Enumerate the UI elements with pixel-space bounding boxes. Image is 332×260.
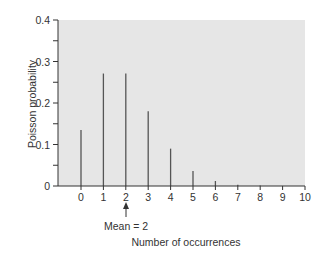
- mean-annotation: Mean = 2: [104, 202, 148, 232]
- x-axis: 012345678910: [58, 186, 311, 203]
- plot-area: [58, 20, 305, 186]
- x-tick-label: 9: [280, 191, 286, 203]
- x-tick-label: 4: [168, 191, 174, 203]
- x-tick-label: 6: [212, 191, 218, 203]
- x-tick-label: 8: [257, 191, 263, 203]
- x-axis-title: Number of occurrences: [131, 236, 240, 248]
- y-axis-title: Poisson probability: [26, 59, 38, 148]
- y-axis: 00.10.20.30.4: [35, 14, 58, 192]
- x-tick-label: 7: [235, 191, 241, 203]
- x-tick-label: 0: [78, 191, 84, 203]
- x-tick-label: 1: [100, 191, 106, 203]
- x-tick-label: 5: [190, 191, 196, 203]
- mean-label: Mean = 2: [104, 220, 148, 232]
- x-tick-label: 2: [123, 191, 129, 203]
- poisson-chart: 00.10.20.30.4 012345678910 Poisson proba…: [0, 0, 332, 260]
- x-tick-label: 3: [145, 191, 151, 203]
- y-tick-label: 0: [44, 180, 50, 192]
- y-tick-label: 0.4: [35, 14, 50, 26]
- x-tick-label: 10: [299, 191, 311, 203]
- mean-arrow-icon: [123, 202, 129, 209]
